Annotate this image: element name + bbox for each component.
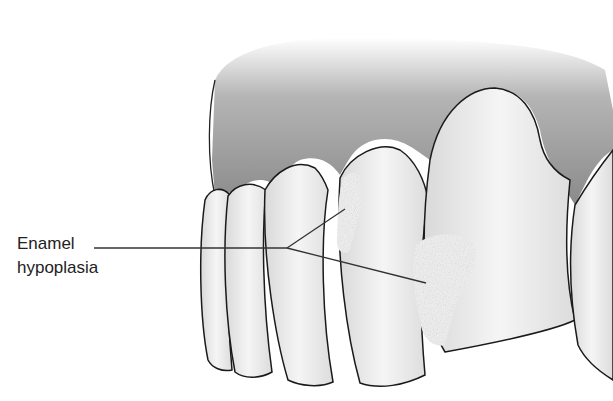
enamel-hypoplasia-illustration: Enamel hypoplasia <box>0 0 613 401</box>
label-enamel: Enamel <box>17 234 75 254</box>
tooth-canine-side <box>265 165 333 386</box>
teeth-drawing <box>0 0 613 401</box>
label-hypoplasia: hypoplasia <box>17 258 98 278</box>
